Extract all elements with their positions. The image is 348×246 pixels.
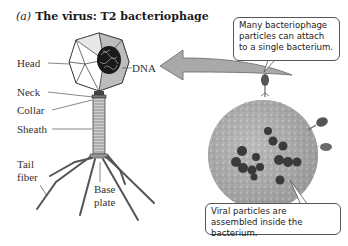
phage-sheath	[93, 98, 105, 154]
label-dna: DNA	[132, 62, 156, 74]
phage-neck	[94, 91, 104, 95]
phage-head	[69, 33, 129, 91]
attached-phage-icon	[261, 74, 269, 97]
label-base-plate-1: Base	[94, 183, 115, 195]
figure: (a)The virus: T2 bacteriophage	[0, 0, 348, 246]
label-collar: Collar	[17, 104, 45, 116]
phage-collar	[92, 95, 106, 98]
bacterium	[208, 100, 318, 210]
label-sheath: Sheath	[17, 123, 47, 135]
label-head: Head	[17, 57, 40, 69]
label-neck: Neck	[17, 86, 40, 98]
label-tail-fiber-2: fiber	[17, 171, 38, 183]
label-tail-fiber-1: Tail	[17, 158, 34, 170]
callout-assembly: Viral particles are assembled inside the…	[205, 203, 341, 235]
callout-attach: Many bacteriophage particles can attach …	[233, 17, 340, 61]
label-base-plate-2: plate	[94, 196, 115, 208]
